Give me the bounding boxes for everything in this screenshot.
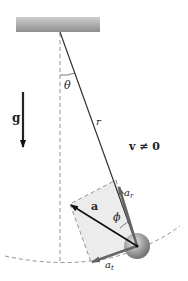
theta-label: θ [64,80,71,91]
theta-arc [60,73,75,75]
velocity-label: v ≠ 0 [129,141,160,152]
ceiling-support [16,17,100,32]
phi-label: ϕ [113,212,121,223]
length-label: r [96,117,101,127]
pendulum-diagram: g θ r v ≠ 0 a ϕ ar at [0,0,188,281]
tangential-accel-label: at [105,260,114,272]
bob-center [135,244,138,247]
acceleration-label: a [91,201,98,212]
radial-accel-label: ar [124,188,133,200]
gravity-label: g [12,112,20,124]
